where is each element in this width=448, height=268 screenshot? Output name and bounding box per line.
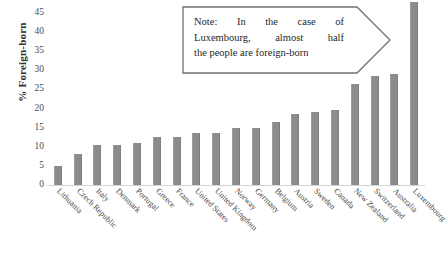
bar xyxy=(133,143,141,185)
y-tick-label: 40 xyxy=(20,27,44,37)
x-label-slot: Denmark xyxy=(107,188,127,268)
x-label-slot: Norway xyxy=(226,188,246,268)
note-word: Note: xyxy=(194,14,217,30)
x-label-slot: Belgium xyxy=(266,188,286,268)
note-word: almost xyxy=(275,30,303,46)
bar-slot xyxy=(48,0,68,185)
bar xyxy=(291,114,299,185)
x-label-slot: Austria xyxy=(286,188,306,268)
x-label-slot: Switzerland xyxy=(365,188,385,268)
note-line-3: the people are foreign-born xyxy=(194,45,344,61)
note-word: case xyxy=(298,14,316,30)
bar xyxy=(192,133,200,185)
x-label-slot: Lithuania xyxy=(48,188,68,268)
y-tick-label: 30 xyxy=(20,66,44,76)
x-label-slot: Canada xyxy=(325,188,345,268)
bar xyxy=(232,128,240,185)
x-label-slot: New Zealand xyxy=(345,188,365,268)
y-tick-label: 10 xyxy=(20,142,44,152)
bar xyxy=(113,145,121,185)
bar xyxy=(252,128,260,185)
y-tick-label: 45 xyxy=(20,8,44,18)
y-tick-label: 20 xyxy=(20,104,44,114)
bar xyxy=(351,84,359,185)
bar-slot xyxy=(404,0,424,185)
note-line-1: Note:Inthecaseof xyxy=(194,14,344,30)
bar xyxy=(272,122,280,185)
x-label-slot: Portugal xyxy=(127,188,147,268)
x-label-slot: Greece xyxy=(147,188,167,268)
note-line-2: Luxembourg,almosthalf xyxy=(194,30,344,46)
bar-slot xyxy=(147,0,167,185)
x-label-slot: France xyxy=(167,188,187,268)
bar xyxy=(311,112,319,185)
y-tick-label: 35 xyxy=(20,46,44,56)
bar xyxy=(331,110,339,185)
bar xyxy=(371,76,379,185)
x-label-slot: United States xyxy=(187,188,207,268)
x-axis-baseline xyxy=(47,185,425,186)
note-word: half xyxy=(328,30,344,46)
y-tick-label: 5 xyxy=(20,161,44,171)
x-label-slot: Sweden xyxy=(305,188,325,268)
bar xyxy=(173,137,181,185)
bar xyxy=(212,133,220,185)
luxembourg-note-callout: Note:Inthecaseof Luxembourg,almosthalf t… xyxy=(182,6,391,74)
x-label-slot: Germany xyxy=(246,188,266,268)
bar-slot xyxy=(88,0,108,185)
bar-slot xyxy=(107,0,127,185)
note-text: Note:Inthecaseof Luxembourg,almosthalf t… xyxy=(194,14,344,61)
x-label-slot: Australia xyxy=(385,188,405,268)
x-axis-labels: LithuaniaCzech RepublicItalyDenmarkPortu… xyxy=(47,188,425,268)
x-label-slot: Czech Republic xyxy=(68,188,88,268)
x-label-slot: United Kingdom xyxy=(206,188,226,268)
bar xyxy=(74,154,82,185)
bar xyxy=(390,74,398,185)
note-word: In xyxy=(237,14,246,30)
y-axis-ticks: 051015202530354045 xyxy=(20,0,44,190)
x-label-slot: Luxembourg xyxy=(404,188,424,268)
bar xyxy=(410,2,418,185)
y-tick-label: 15 xyxy=(20,123,44,133)
note-word: of xyxy=(335,14,344,30)
bar xyxy=(93,145,101,185)
y-tick-label: 0 xyxy=(20,180,44,190)
bar-slot xyxy=(68,0,88,185)
x-label-slot: Italy xyxy=(88,188,108,268)
bar-slot xyxy=(127,0,147,185)
note-word: the xyxy=(265,14,278,30)
bar xyxy=(54,166,62,185)
x-tick-label: Luxembourg xyxy=(411,187,447,223)
note-word: Luxembourg, xyxy=(194,30,251,46)
y-tick-label: 25 xyxy=(20,85,44,95)
bar xyxy=(153,137,161,185)
